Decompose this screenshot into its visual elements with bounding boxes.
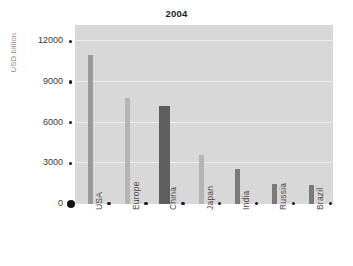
y-tick-label: 6000	[43, 117, 63, 127]
y-tick-dot	[69, 80, 72, 83]
y-tick-label: 12000	[38, 35, 63, 45]
x-axis-dot	[144, 202, 147, 205]
bar	[199, 155, 204, 204]
bar	[235, 169, 240, 204]
x-axis-label: Russia	[278, 183, 288, 210]
bar	[309, 185, 314, 204]
bar	[125, 98, 130, 204]
x-axis-dot	[181, 202, 184, 205]
y-tick-label: 0	[58, 198, 63, 208]
x-axis-label: China	[168, 187, 178, 210]
x-axis-label: Brazil	[315, 188, 325, 210]
chart-title: 2004	[0, 8, 353, 19]
bars-layer	[75, 25, 333, 204]
bar	[272, 184, 277, 204]
origin-marker-dot	[67, 200, 75, 208]
y-tick-dot	[69, 121, 72, 124]
x-axis-label: Japan	[205, 186, 215, 210]
y-tick-label: 9000	[43, 76, 63, 86]
x-axis-dot	[255, 202, 258, 205]
x-axis-label: India	[241, 191, 251, 210]
y-tick-dot	[69, 162, 72, 165]
y-tick-label: 3000	[43, 157, 63, 167]
bar	[88, 55, 93, 204]
side-watermark-text	[342, 0, 352, 266]
x-axis-label: USA	[94, 192, 104, 210]
x-axis-dot	[292, 202, 295, 205]
chart-page: 2004 USD billion 030006000900012000 USAE…	[0, 0, 353, 266]
x-axis-label: Europe	[131, 181, 141, 210]
y-tick-dot	[69, 40, 72, 43]
x-axis-dot	[107, 202, 110, 205]
x-axis-dot	[329, 202, 332, 205]
y-axis-ticks: 030006000900012000	[0, 25, 75, 204]
x-axis-dot	[218, 202, 221, 205]
